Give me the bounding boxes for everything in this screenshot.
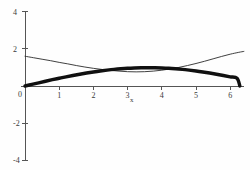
y-tick-label--2: -2 (13, 119, 20, 128)
x-tick-label-4: 4 (160, 91, 164, 100)
y-tick-label-2: 2 (13, 45, 17, 54)
x-axis-label: x (130, 96, 134, 104)
y-tick-label-4: 4 (13, 8, 17, 17)
x-axis-tick-labels: 123456 (57, 91, 232, 100)
x-tick-label-3: 3 (126, 91, 130, 100)
x-axis-ticks (59, 86, 230, 90)
x-tick-label-5: 5 (194, 91, 198, 100)
y-tick-label--4: -4 (13, 156, 20, 165)
y-axis-tick-labels: -4-224 (13, 8, 20, 166)
plot-area: 123456 -4-224 0 x (0, 0, 250, 170)
x-tick-label-2: 2 (91, 91, 95, 100)
data-curve-thick (25, 68, 240, 86)
x-tick-label-6: 6 (228, 91, 232, 100)
origin-label: 0 (18, 90, 22, 99)
x-tick-label-1: 1 (57, 91, 61, 100)
chart-figure: 123456 -4-224 0 x (0, 0, 250, 170)
